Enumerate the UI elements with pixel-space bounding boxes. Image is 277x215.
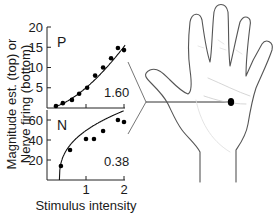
stimulus-site-marker [228, 98, 234, 106]
connector-top [128, 62, 146, 102]
data-point [77, 92, 82, 97]
hand-outline [146, 5, 273, 183]
bottom-x-ticks: 12 [82, 176, 127, 197]
data-point [68, 148, 73, 153]
data-point [116, 46, 121, 51]
data-point [59, 164, 64, 169]
data-point [109, 56, 114, 61]
data-point [122, 120, 127, 125]
top-x-ticks [86, 104, 124, 108]
palm-crease [208, 78, 250, 96]
x-tick-label: 1 [82, 182, 89, 197]
exponent-label-top: 1.60 [104, 85, 129, 100]
y-tick-label: 20 [29, 20, 43, 35]
data-point [101, 129, 106, 134]
data-point [92, 137, 97, 142]
y-tick-label: 10 [29, 60, 43, 75]
palm-crease [196, 100, 230, 152]
y-tick-label: 40 [29, 133, 43, 148]
data-point [93, 73, 98, 78]
connector-bottom [128, 102, 146, 134]
y-tick-label: 15 [29, 40, 43, 55]
top-panel-magnitude-estimate: 5101520 P 1.60 [29, 20, 130, 109]
bottom-panel-nerve-firing: 204060 12 N 0.38 [29, 110, 130, 197]
data-point [54, 104, 59, 109]
palm-crease [204, 96, 246, 104]
x-axis-title: Stimulus intensity [35, 198, 137, 213]
y-tick-label: 5 [36, 80, 43, 95]
bottom-fit-curve [59, 111, 123, 180]
finger-crease [218, 40, 226, 50]
y-tick-label: 60 [29, 113, 43, 128]
y-axis-title-line1: Magnitude est. (top) or [4, 38, 19, 169]
finger-crease [198, 46, 204, 48]
y-axis-title: Magnitude est. (top) or Nerve firing (bo… [4, 38, 33, 169]
data-point [84, 137, 89, 142]
panel-label-p: P [57, 34, 66, 50]
hand-illustration [146, 5, 273, 183]
data-point [61, 101, 66, 106]
data-point [101, 65, 106, 70]
panel-label-n: N [57, 117, 67, 133]
bottom-y-ticks: 204060 [29, 113, 51, 168]
exponent-label-bottom: 0.38 [104, 154, 129, 169]
figure: Magnitude est. (top) or Nerve firing (bo… [0, 0, 277, 215]
finger-crease [236, 50, 242, 54]
y-tick-label: 20 [29, 153, 43, 168]
data-point [116, 118, 121, 123]
data-point [122, 48, 127, 53]
connector-lines [128, 62, 230, 134]
data-point [85, 85, 90, 90]
x-tick-label: 2 [120, 182, 127, 197]
data-point [70, 98, 75, 103]
